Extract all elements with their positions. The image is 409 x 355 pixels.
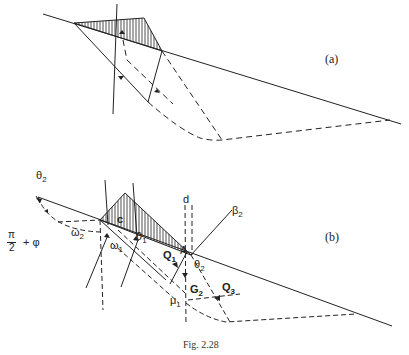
panel-a-drawing [43,4,401,140]
label-theta2: θ2 [194,259,205,270]
panel-b-drawing [36,180,392,326]
ground-surface-line-b [38,197,392,326]
figure-caption: Fig. 2.28 [183,339,219,350]
arrow-g2 [182,273,188,278]
label-omega2: ω2 [71,227,84,238]
label-Q1: Q1 [163,250,176,261]
panel-label-a: (a) [325,53,338,65]
label-d: d [183,194,189,205]
dashed-line-a3 [162,51,222,140]
panel-label-b: (b) [325,231,339,243]
label-two: 2 [9,243,15,253]
arrow-a2 [118,76,124,80]
label-omega1: ω1 [110,240,123,251]
dashed-horizontal-omega2 [58,220,100,222]
label-Q3: Q3 [222,282,235,293]
force-arrow-line-b1 [86,235,108,288]
beta2-line [191,210,232,255]
label-mu1: μ1 [170,295,181,306]
angle-arc-pi2-phi [38,197,100,232]
label-beta2: β2 [232,205,243,216]
dashed-line-a2 [127,60,173,104]
dashed-vertical-d1 [185,205,186,325]
label-c: c [117,214,123,225]
hatched-wedge-a [74,18,162,51]
label-A: A [180,245,187,256]
label-plus-phi: + φ [23,237,40,248]
label-pi-over-2: π [8,230,15,240]
label-theta1: θ1 [136,231,147,242]
label-theta2-top: θ2 [36,170,47,181]
slip-curve-b [186,303,356,322]
boundary-line-a [148,51,162,102]
label-G2: G2 [190,284,203,295]
arrow-b1 [104,233,110,238]
arrow-pi2phi [44,209,48,213]
diagram-canvas [0,0,409,355]
dashed-line-a1 [123,40,127,60]
slip-curve-a [148,102,390,140]
dashed-vertical-b1 [100,220,103,310]
